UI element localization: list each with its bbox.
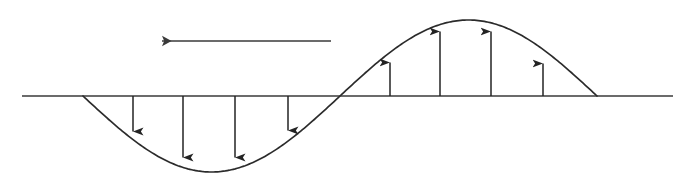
wave-diagram-canvas <box>0 0 686 187</box>
wave-diagram-figure <box>0 0 686 187</box>
velocity-vectors-down <box>133 96 288 158</box>
velocity-vectors-up <box>390 32 543 97</box>
